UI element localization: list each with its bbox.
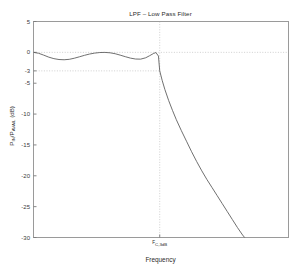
y-axis-tick-label: -25 xyxy=(4,204,30,210)
x-axis-label: Frequency xyxy=(33,256,288,263)
y-axis-tick-label: -30 xyxy=(4,235,30,241)
axis-tick-marks-layer xyxy=(34,22,160,238)
chart-title: LPF – Low Pass Filter xyxy=(33,10,288,17)
plot-area xyxy=(0,0,304,272)
y-axis-tick-label: 0 xyxy=(4,49,30,55)
y-axis-tick-label: -20 xyxy=(4,173,30,179)
y-axis-tick-label: -3 xyxy=(4,68,30,74)
y-axis-tick-label: 5 xyxy=(4,19,30,25)
y-axis-tick-label: -5 xyxy=(4,80,30,86)
figure-canvas: LPF – Low Pass Filter PIN/PAVAIL (dB) 50… xyxy=(0,0,304,272)
lpf-magnitude-response xyxy=(34,52,248,241)
reference-line-layer xyxy=(34,22,289,238)
cutoff-label-subscript: C,3dB xyxy=(155,242,167,247)
axes-box-layer xyxy=(34,22,289,238)
y-axis-tick-labels: 50-3-5-10-15-20-25-30 xyxy=(0,0,30,272)
axes-box xyxy=(34,22,289,238)
y-axis-tick-label: -10 xyxy=(4,111,30,117)
cutoff-frequency-tick-label: FC,3dB xyxy=(152,240,167,247)
series-layer xyxy=(34,52,248,241)
y-axis-tick-label: -15 xyxy=(4,142,30,148)
